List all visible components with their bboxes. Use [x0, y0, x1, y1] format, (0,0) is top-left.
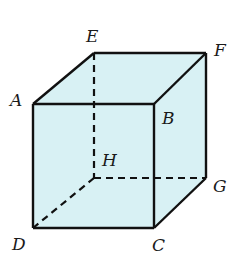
label-C: C [152, 235, 165, 255]
label-D: D [11, 234, 26, 254]
label-F: F [213, 40, 227, 60]
label-B: B [161, 108, 175, 128]
cube-diagram: A B C D E F G H [0, 0, 246, 255]
label-G: G [213, 176, 227, 196]
label-H: H [101, 150, 118, 170]
label-A: A [8, 90, 22, 110]
label-E: E [85, 26, 99, 46]
